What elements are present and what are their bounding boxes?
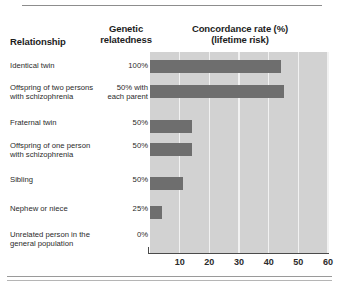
genetic-relatedness-line2: each parent — [88, 92, 148, 101]
x-tick-label-20: 20 — [196, 257, 222, 267]
x-tick-label-60: 60 — [315, 257, 339, 267]
gridline-30 — [238, 52, 239, 253]
genetic-relatedness-line1: 25% — [88, 204, 148, 213]
chart-title-line1: Concordance rate (%) — [160, 23, 320, 34]
bar — [150, 177, 183, 190]
genetic-relatedness-value: 0% — [88, 230, 148, 239]
x-tick-label-30: 30 — [226, 257, 252, 267]
bar — [150, 85, 284, 98]
genetic-relatedness-value: 100% — [88, 61, 148, 70]
bottom-divider-rule-1 — [7, 276, 332, 277]
genetic-relatedness-value: 50% — [88, 175, 148, 184]
genetic-relatedness-line1: 50% — [88, 118, 148, 127]
gridline-50 — [298, 52, 299, 253]
chart-title-line2: (lifetime risk) — [160, 34, 320, 45]
column-header-relationship-label: Relationship — [10, 36, 66, 47]
genetic-relatedness-line1: 50% with — [88, 83, 148, 92]
bar — [150, 120, 192, 133]
genetic-relatedness-line1: 50% — [88, 141, 148, 150]
chart-title: Concordance rate (%) (lifetime risk) — [160, 23, 320, 45]
x-axis-origin-tick — [148, 247, 149, 254]
column-header-genetic-relatedness: Genetic relatedness — [96, 23, 156, 45]
genetic-relatedness-value: 50% witheach parent — [88, 83, 148, 102]
bottom-divider-rule-2 — [7, 280, 332, 281]
genetic-relatedness-line1: 100% — [88, 61, 148, 70]
column-header-genetic-line1: Genetic — [96, 23, 156, 34]
x-tick-label-10: 10 — [167, 257, 193, 267]
genetic-relatedness-line1: 50% — [88, 175, 148, 184]
chart-figure: Relationship Genetic relatedness Concord… — [0, 0, 339, 294]
bar — [150, 60, 281, 73]
relationship-label-line2: general population — [10, 239, 102, 248]
gridline-40 — [268, 52, 269, 253]
gridline-20 — [209, 52, 210, 253]
column-header-genetic-line2: relatedness — [96, 34, 156, 45]
genetic-relatedness-value: 25% — [88, 204, 148, 213]
x-tick-label-40: 40 — [256, 257, 282, 267]
bar — [150, 143, 192, 156]
genetic-relatedness-value: 50% — [88, 118, 148, 127]
bar — [150, 206, 162, 219]
genetic-relatedness-value: 50% — [88, 141, 148, 150]
column-header-relationship: Relationship — [10, 36, 102, 47]
x-axis-line — [148, 253, 329, 254]
relationship-label-line2: with schizophrenia — [10, 150, 102, 159]
x-tick-label-50: 50 — [285, 257, 311, 267]
top-divider-rule — [22, 5, 322, 6]
genetic-relatedness-line1: 0% — [88, 230, 148, 239]
gridline-60 — [327, 52, 328, 253]
